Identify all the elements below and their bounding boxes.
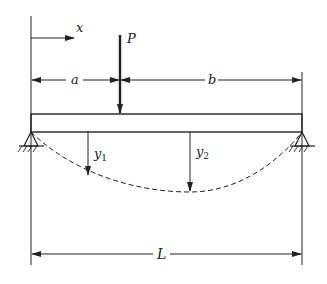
load-label: P xyxy=(126,31,136,46)
deflection-y2-label: y2 xyxy=(195,144,209,161)
dimension-a-label: a xyxy=(71,72,79,87)
x-axis-label: x xyxy=(76,20,84,35)
deflection-y1-label: y1 xyxy=(93,146,107,163)
dimension-b-label: b xyxy=(208,72,216,87)
dimension-L-label: L xyxy=(156,246,166,262)
beam-diagram: x P a b y1 y2 L xyxy=(0,0,327,284)
beam xyxy=(31,114,302,132)
deflection-curve xyxy=(31,132,302,192)
